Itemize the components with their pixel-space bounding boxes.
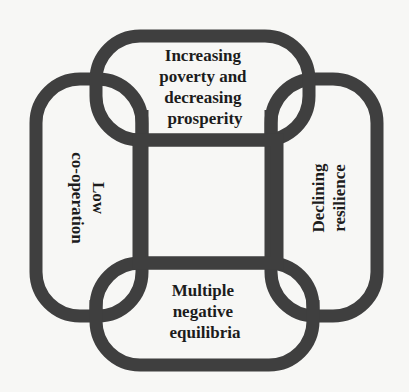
- inner-square: [139, 140, 277, 263]
- label-left: Lowco-operation: [68, 152, 108, 244]
- label-bottom: Multiple negative equilibria: [170, 281, 241, 342]
- svg-text:Lowco-operation: Lowco-operation: [68, 152, 108, 244]
- label-right: Decliningresilience: [309, 163, 349, 232]
- ring-left: [36, 79, 142, 316]
- vicious-circle-diagram: Increasing poverty and decreasing prospe…: [0, 0, 409, 392]
- label-top: Increasing poverty and decreasing prospe…: [159, 46, 251, 128]
- svg-text:Decliningresilience: Decliningresilience: [309, 163, 349, 232]
